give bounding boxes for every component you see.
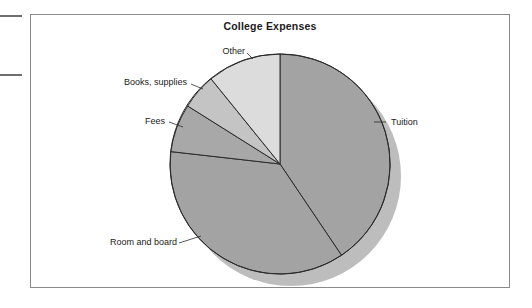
pie-label-tuition: Tuition bbox=[391, 117, 418, 127]
pie-label-books-supplies: Books, supplies bbox=[81, 77, 187, 87]
upper-margin-rule bbox=[0, 15, 22, 17]
pie-label-fees: Fees bbox=[105, 116, 165, 126]
pie-chart bbox=[31, 15, 511, 289]
pie-label-room-and-board: Room and board bbox=[73, 237, 177, 247]
leader-line-room-and-board bbox=[179, 236, 201, 243]
chart-frame: College Expenses Tuition Room a bbox=[30, 14, 510, 288]
page-canvas: College Expenses Tuition Room a bbox=[0, 0, 532, 308]
lower-margin-rule bbox=[0, 74, 22, 76]
leader-line-books-supplies bbox=[191, 84, 203, 89]
pie-label-other: Other bbox=[183, 46, 245, 56]
